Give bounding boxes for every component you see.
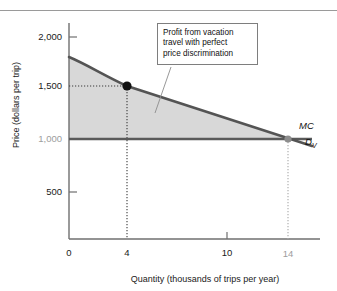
x-axis-title: Quantity (thousands of trips per year)	[131, 274, 280, 284]
y-tick-label-500: 500	[22, 186, 62, 197]
demand-curve-label: DV	[305, 136, 317, 149]
x-tick-label-0: 0	[54, 247, 84, 258]
mc-curve-label: MC	[299, 120, 314, 131]
point-q14-p1000	[284, 135, 291, 142]
x-tick-label-10: 10	[212, 247, 242, 258]
point-q4-p1500	[122, 81, 131, 90]
figure-container: 2,000 1,500 1,000 500 0 4 10 14 Price (d…	[0, 0, 337, 291]
profit-callout-box: Profit from vacation travel with perfect…	[157, 23, 258, 65]
y-tick-label-1500: 1,500	[22, 80, 62, 91]
y-axis-title-wrapper: Price (dollars per trip)	[5, 45, 23, 165]
callout-line-1: Profit from vacation	[163, 28, 252, 38]
x-tick-label-4: 4	[112, 247, 142, 258]
x-tick-label-14: 14	[273, 248, 303, 259]
demand-curve-label-main: D	[305, 136, 312, 147]
x-axis-title-wrapper: Quantity (thousands of trips per year)	[80, 268, 330, 286]
demand-curve-label-sub: V	[312, 142, 317, 149]
callout-line-3: price discrimination	[163, 49, 252, 59]
y-tick-label-1000: 1,000	[22, 133, 62, 144]
y-tick-label-2000: 2,000	[22, 31, 62, 42]
callout-line-2: travel with perfect	[163, 38, 252, 48]
y-axis-title: Price (dollars per trip)	[11, 62, 21, 148]
